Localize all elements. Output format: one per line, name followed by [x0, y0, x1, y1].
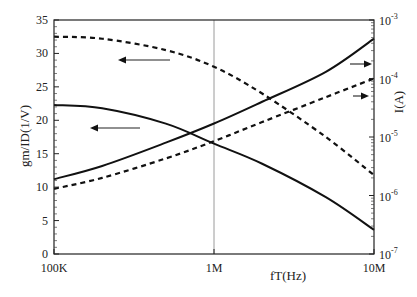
y-tick-label: 15: [36, 147, 48, 161]
x-axis-title: fT(Hz): [270, 268, 306, 283]
y-tick-label: 5: [42, 214, 48, 228]
y-tick-label: 0: [42, 247, 48, 261]
arrow-left-icon: [90, 125, 98, 132]
x-tick-label: 1M: [206, 261, 223, 275]
y2-tick-label: 10-3: [379, 12, 398, 28]
y-tick-label: 30: [36, 46, 48, 60]
y-tick-label: 10: [36, 180, 48, 194]
y-tick-label: 35: [36, 13, 48, 27]
y-tick-label: 20: [36, 113, 48, 127]
y2-tick-label: 10-7: [379, 246, 398, 262]
y-axis-title: gm/ID(1/V): [17, 105, 32, 167]
x-tick-label: 100K: [41, 261, 68, 275]
arrow-right-icon: [364, 61, 372, 68]
y2-tick-label: 10-5: [379, 129, 398, 145]
arrow-left-icon: [118, 57, 126, 64]
axes: 0510152025303510-310-410-510-610-7100K1M…: [36, 12, 398, 275]
y2-tick-label: 10-6: [379, 188, 398, 204]
chart: 0510152025303510-310-410-510-610-7100K1M…: [0, 0, 417, 297]
y-tick-label: 25: [36, 80, 48, 94]
x-tick-label: 10M: [363, 261, 386, 275]
arrow-right-icon: [361, 93, 369, 100]
annotation-arrows: [90, 57, 372, 132]
y2-tick-label: 10-4: [379, 71, 398, 87]
y2-axis-title: I(A): [391, 91, 406, 113]
